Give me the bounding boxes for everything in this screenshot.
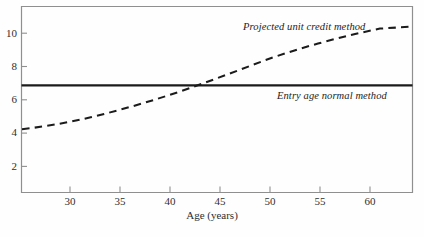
- y-tick-label-6: 6: [0, 94, 17, 105]
- x-axis-title: Age (years): [0, 210, 424, 221]
- x-tick-label-55: 55: [306, 196, 334, 207]
- series-label-entry-age-normal: Entry age normal method: [277, 91, 387, 102]
- y-tick-label-8: 8: [0, 61, 17, 72]
- x-tick-marks: [70, 187, 370, 193]
- y-tick-label-10: 10: [0, 28, 17, 39]
- y-tick-label-2: 2: [0, 161, 17, 172]
- x-tick-label-40: 40: [156, 196, 184, 207]
- x-tick-label-50: 50: [256, 196, 284, 207]
- x-tick-label-35: 35: [106, 196, 134, 207]
- y-tick-label-4: 4: [0, 127, 17, 138]
- y-tick-marks: [22, 33, 28, 166]
- series-projected-unit-credit-line: [22, 27, 412, 130]
- chart-figure: 10 8 6 4 2 30 35 40 45 50 55 60 Projecte…: [0, 0, 424, 237]
- x-tick-label-45: 45: [206, 196, 234, 207]
- x-tick-label-30: 30: [56, 196, 84, 207]
- x-tick-label-60: 60: [356, 196, 384, 207]
- series-label-projected-unit-credit: Projected unit credit method: [243, 22, 365, 33]
